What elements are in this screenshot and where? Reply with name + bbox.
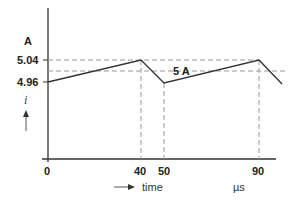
current-waveform-diagram: A 5.04 4.96 i 5 A 0 40 50 90 time µs bbox=[0, 0, 299, 207]
x-tick-0: 0 bbox=[44, 165, 50, 177]
y-unit-label: A bbox=[24, 35, 32, 47]
y-symbol: i bbox=[24, 93, 27, 107]
y-tick-5.04: 5.04 bbox=[17, 54, 39, 66]
x-tick-40: 40 bbox=[134, 165, 146, 177]
x-unit: µs bbox=[233, 181, 245, 193]
x-tick-90: 90 bbox=[252, 165, 264, 177]
x-label: time bbox=[142, 181, 163, 193]
avg-label: 5 A bbox=[173, 65, 190, 77]
x-tick-50: 50 bbox=[158, 165, 170, 177]
y-tick-4.96: 4.96 bbox=[17, 76, 38, 88]
current-waveform bbox=[48, 60, 282, 84]
